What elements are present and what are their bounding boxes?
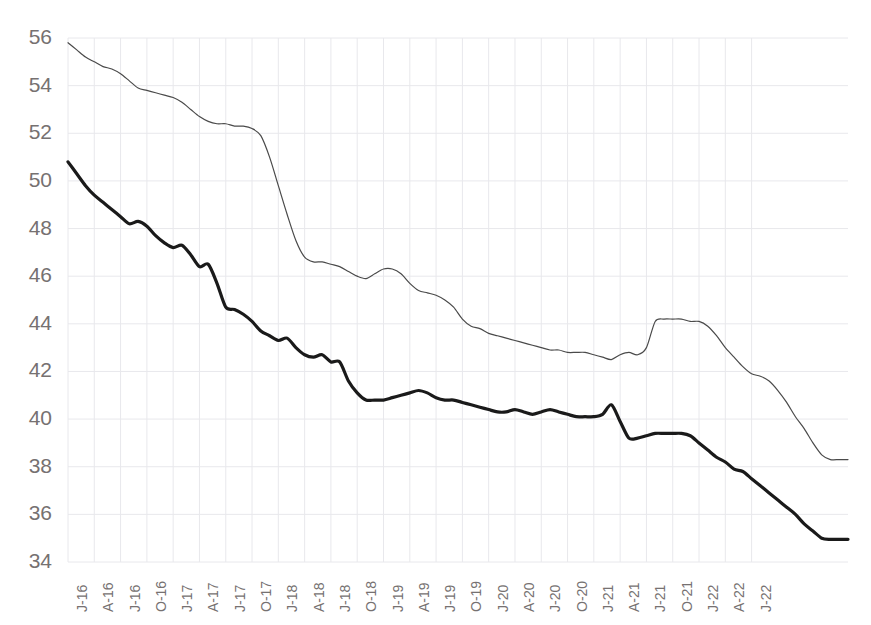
series-line-upper-series — [68, 43, 848, 460]
y-axis-tick-label: 42 — [8, 358, 52, 382]
y-axis-tick-label: 50 — [8, 168, 52, 192]
y-axis-tick-label: 40 — [8, 406, 52, 430]
x-axis-tick-label: O-16 — [153, 581, 169, 612]
x-axis-tick-label: J-18 — [337, 585, 353, 612]
x-axis-tick-label: O-19 — [468, 581, 484, 612]
y-axis-tick-label: 36 — [8, 501, 52, 525]
x-axis-tick-label: J-20 — [495, 585, 511, 612]
x-axis-tick-label: A-17 — [205, 582, 221, 612]
y-axis-tick-label: 38 — [8, 454, 52, 478]
y-axis-tick-label: 52 — [8, 120, 52, 144]
x-axis-tick-label: A-16 — [100, 582, 116, 612]
y-axis-tick-label: 48 — [8, 216, 52, 240]
gridlines-group — [68, 38, 848, 562]
x-axis-tick-label: J-21 — [652, 585, 668, 612]
x-axis-tick-label: A-18 — [311, 582, 327, 612]
x-axis-tick-label: J-20 — [547, 585, 563, 612]
x-axis-tick-label: J-17 — [232, 585, 248, 612]
x-axis-tick-label: J-22 — [758, 585, 774, 612]
x-axis-tick-label: J-17 — [179, 585, 195, 612]
x-axis-tick-label: O-20 — [574, 581, 590, 612]
x-axis-tick-label: O-17 — [258, 581, 274, 612]
series-line-lower-series — [68, 162, 848, 540]
y-axis-tick-label: 54 — [8, 73, 52, 97]
x-axis-tick-label: J-19 — [390, 585, 406, 612]
x-axis-tick-label: J-22 — [705, 585, 721, 612]
x-axis-tick-label: A-21 — [626, 582, 642, 612]
y-axis-tick-label: 56 — [8, 25, 52, 49]
x-axis-tick-label: J-18 — [284, 585, 300, 612]
y-axis-tick-label: 34 — [8, 549, 52, 573]
x-axis-tick-label: J-16 — [127, 585, 143, 612]
x-axis-tick-label: J-16 — [74, 585, 90, 612]
x-axis-tick-label: J-21 — [600, 585, 616, 612]
x-axis-tick-label: A-19 — [416, 582, 432, 612]
x-axis-tick-label: A-22 — [731, 582, 747, 612]
x-axis-tick-label: O-18 — [363, 581, 379, 612]
chart-plot-area — [0, 0, 871, 625]
x-axis-tick-label: J-19 — [442, 585, 458, 612]
line-chart-figure: 565452504846444240383634 J-16A-16J-16O-1… — [0, 0, 871, 625]
y-axis-tick-label: 44 — [8, 311, 52, 335]
x-axis-tick-label: A-20 — [521, 582, 537, 612]
data-series-group — [68, 43, 848, 540]
y-axis-tick-label: 46 — [8, 263, 52, 287]
x-axis-tick-label: O-21 — [679, 581, 695, 612]
